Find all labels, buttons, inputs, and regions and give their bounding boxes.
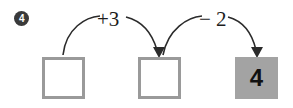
arrow-add-three-path (63, 16, 100, 55)
start-box[interactable] (42, 57, 85, 99)
worksheet-exercise-item: 4 +3 − 2 4 (0, 0, 293, 108)
result-box[interactable]: 4 (235, 57, 278, 99)
arrow-subtract-two-path-tail (228, 17, 256, 50)
operation-label-subtract-two: − 2 (199, 9, 227, 30)
arrow-add-three-path-tail (126, 17, 157, 50)
middle-box[interactable] (138, 57, 181, 99)
arrow-subtract-two-path (163, 16, 202, 55)
operation-label-add-three: +3 (97, 9, 119, 30)
